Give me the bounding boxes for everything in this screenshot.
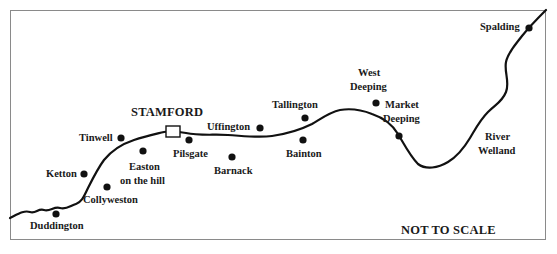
not-to-scale-note: NOT TO SCALE: [401, 224, 496, 237]
ketton-dot: [80, 170, 87, 177]
river-welland-line: [10, 10, 546, 218]
barnack-label: Barnack: [214, 164, 253, 177]
ketton-label: Ketton: [46, 167, 77, 180]
collyweston-label: Collyweston: [83, 193, 138, 206]
tallington-dot: [301, 114, 308, 121]
uffington-dot: [256, 124, 263, 131]
duddington-label: Duddington: [30, 219, 84, 232]
stamford-square-marker-icon: [166, 126, 180, 137]
duddington-dot: [52, 210, 59, 217]
tinwell-label: Tinwell: [79, 131, 113, 144]
west-deeping-label-1: West: [358, 66, 380, 79]
west-deeping-dot: [372, 99, 379, 106]
easton-dot: [139, 147, 146, 154]
stamford-label: STAMFORD: [131, 106, 203, 119]
market-deeping-dot: [395, 132, 402, 139]
market-deeping-label-1: Market: [385, 98, 419, 111]
west-deeping-label-2: Deeping: [350, 80, 387, 93]
tinwell-dot: [117, 134, 124, 141]
spalding-label: Spalding: [480, 20, 520, 33]
easton-label-2: on the hill: [120, 174, 165, 187]
river-label-1: River: [485, 130, 510, 143]
spalding-dot: [525, 24, 532, 31]
barnack-dot: [228, 153, 235, 160]
collyweston-dot: [103, 183, 110, 190]
map-canvas: [0, 0, 557, 254]
river-label-2: Welland: [478, 144, 515, 157]
uffington-label: Uffington: [207, 120, 250, 133]
bainton-label: Bainton: [286, 147, 322, 160]
market-deeping-label-2: Deeping: [383, 112, 420, 125]
pilsgate-dot: [185, 136, 192, 143]
bainton-dot: [299, 136, 306, 143]
tallington-label: Tallington: [272, 98, 318, 111]
pilsgate-label: Pilsgate: [173, 147, 208, 160]
easton-label-1: Easton: [129, 160, 160, 173]
